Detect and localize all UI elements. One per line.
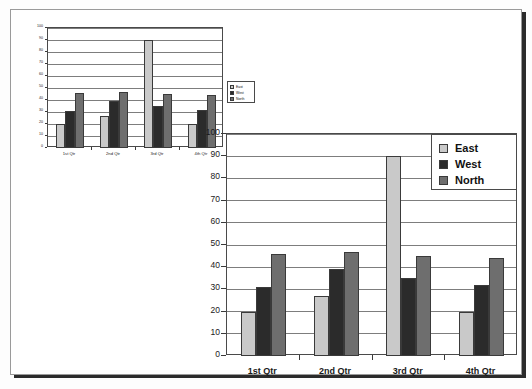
y-axis-tick-mark [221, 355, 226, 356]
gridline [48, 52, 222, 53]
bar-east-2nd-qtr[interactable] [314, 296, 329, 356]
bar-east-1st-qtr[interactable] [241, 312, 256, 356]
legend-swatch-east [439, 144, 448, 153]
y-axis-tick-mark [45, 111, 48, 112]
y-axis-tick-label: 90 [17, 37, 43, 41]
x-axis-tick-label: 1st Qtr [226, 367, 299, 376]
y-axis-tick-label: 40 [194, 261, 220, 270]
x-axis-tick-mark [135, 147, 136, 150]
legend-swatch-west [439, 160, 448, 169]
chart-legend-large[interactable]: East West North [431, 134, 517, 190]
y-axis-tick-mark [45, 63, 48, 64]
bar-west-3rd-qtr[interactable] [153, 106, 162, 148]
bar-west-1st-qtr[interactable] [256, 287, 271, 356]
y-axis-tick-mark [221, 177, 226, 178]
bar-north-2nd-qtr[interactable] [119, 92, 128, 148]
gridline [48, 40, 222, 41]
legend-item-north: North [439, 172, 509, 188]
bar-west-1st-qtr[interactable] [65, 111, 74, 148]
gridline [48, 76, 222, 77]
x-axis-tick-label: 4th Qtr [444, 367, 517, 376]
y-axis-tick-mark [221, 311, 226, 312]
y-axis-tick-label: 50 [194, 239, 220, 248]
y-axis-tick-mark [221, 200, 226, 201]
legend-swatch-north [439, 176, 448, 185]
legend-label-east: East [455, 142, 478, 154]
bar-chart-large[interactable]: East West North 01020304050607080901001s… [194, 129, 524, 379]
legend-swatch-west [230, 91, 234, 95]
y-axis-tick-label: 60 [194, 217, 220, 226]
y-axis-tick-label: 20 [194, 306, 220, 315]
bar-north-4th-qtr[interactable] [489, 258, 504, 356]
x-axis-tick-mark [179, 147, 180, 150]
bar-east-3rd-qtr[interactable] [386, 156, 401, 356]
y-axis-tick-label: 40 [17, 97, 43, 101]
legend-item-north: North [230, 96, 252, 102]
bar-west-2nd-qtr[interactable] [329, 269, 344, 356]
y-axis-tick-mark [221, 222, 226, 223]
y-axis-tick-label: 50 [17, 85, 43, 89]
x-axis-tick-label: 3rd Qtr [372, 367, 445, 376]
y-axis-tick-label: 30 [17, 109, 43, 113]
y-axis-tick-label: 80 [17, 49, 43, 53]
legend-swatch-north [230, 97, 234, 101]
x-axis-tick-mark [444, 355, 445, 360]
gridline [227, 245, 516, 246]
y-axis-tick-mark [45, 39, 48, 40]
bar-east-1st-qtr[interactable] [56, 124, 65, 148]
gridline [48, 88, 222, 89]
y-axis-tick-mark [45, 87, 48, 88]
y-axis-tick-mark [221, 288, 226, 289]
bar-north-3rd-qtr[interactable] [416, 256, 431, 356]
y-axis-tick-label: 0 [17, 145, 43, 149]
gridline [48, 64, 222, 65]
y-axis-tick-label: 0 [194, 350, 220, 359]
y-axis-tick-label: 80 [194, 172, 220, 181]
y-axis-tick-mark [221, 133, 226, 134]
y-axis-tick-mark [45, 123, 48, 124]
y-axis-tick-label: 10 [17, 133, 43, 137]
y-axis-tick-mark [45, 135, 48, 136]
legend-swatch-east [230, 85, 234, 89]
y-axis-tick-mark [45, 99, 48, 100]
y-axis-tick-label: 100 [194, 128, 220, 137]
y-axis-tick-mark [221, 155, 226, 156]
y-axis-tick-label: 60 [17, 73, 43, 77]
legend-label-north: North [455, 174, 484, 186]
bar-east-3rd-qtr[interactable] [144, 40, 153, 148]
bar-north-3rd-qtr[interactable] [163, 94, 172, 148]
y-axis-tick-label: 90 [194, 150, 220, 159]
x-axis-tick-mark [91, 147, 92, 150]
bar-west-2nd-qtr[interactable] [109, 101, 118, 148]
legend-label-north: North [236, 97, 244, 101]
y-axis-tick-label: 20 [17, 121, 43, 125]
y-axis-tick-mark [45, 27, 48, 28]
gridline [227, 222, 516, 223]
x-axis-tick-label: 2nd Qtr [299, 367, 372, 376]
x-axis-tick-mark [372, 355, 373, 360]
bar-east-4th-qtr[interactable] [459, 312, 474, 356]
legend-label-west: West [455, 158, 481, 170]
y-axis-tick-mark [45, 75, 48, 76]
screen-canvas: East West North 01020304050607080901001s… [0, 0, 532, 389]
bar-west-3rd-qtr[interactable] [401, 278, 416, 356]
gridline [227, 200, 516, 201]
y-axis-tick-mark [221, 244, 226, 245]
document-page[interactable]: East West North 01020304050607080901001s… [10, 9, 522, 375]
legend-item-west: West [439, 156, 509, 172]
x-axis-tick-label: 2nd Qtr [91, 152, 135, 156]
y-axis-tick-label: 30 [194, 283, 220, 292]
chart-legend-small[interactable]: East West North [227, 81, 255, 103]
y-axis-tick-label: 100 [17, 25, 43, 29]
y-axis-tick-mark [221, 266, 226, 267]
x-axis-tick-label: 1st Qtr [47, 152, 91, 156]
bar-north-1st-qtr[interactable] [75, 93, 84, 148]
bar-north-1st-qtr[interactable] [271, 254, 286, 356]
bar-east-2nd-qtr[interactable] [100, 116, 109, 148]
y-axis-tick-mark [45, 147, 48, 148]
legend-label-east: East [236, 85, 243, 89]
legend-item-east: East [439, 140, 509, 156]
y-axis-tick-label: 10 [194, 328, 220, 337]
bar-west-4th-qtr[interactable] [474, 285, 489, 356]
bar-north-2nd-qtr[interactable] [344, 252, 359, 356]
